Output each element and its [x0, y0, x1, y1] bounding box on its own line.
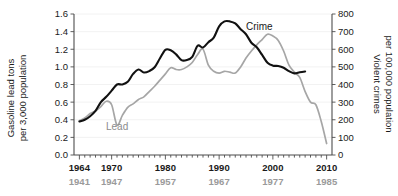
right-axis-title-line1: Violent crimes [372, 54, 383, 114]
left-tick-label: 0.2 [55, 132, 68, 143]
x-tick-label-lead-year: 1985 [316, 176, 338, 187]
bottom-axis-ticks [79, 155, 326, 160]
right-tick-label: 400 [338, 79, 354, 90]
right-tick-label: 100 [338, 132, 354, 143]
right-axis-title: Violent crimes per 100,000 population [372, 35, 395, 132]
left-tick-label: 1.4 [55, 26, 68, 37]
right-tick-label: 700 [338, 26, 354, 37]
series-label-crime: Crime [246, 21, 273, 32]
right-tick-label: 200 [338, 114, 354, 125]
gridlines [74, 14, 332, 137]
x-axis-primary-tick-labels: 196419701980199020002010 [69, 162, 337, 173]
left-tick-label: 0.4 [55, 114, 68, 125]
left-axis-title-line1: Gasoline lead tons [5, 58, 16, 137]
right-tick-label: 800 [338, 8, 354, 19]
x-tick-label-lead-year: 1941 [69, 176, 91, 187]
x-tick-label-crime-year: 2000 [262, 162, 283, 173]
lead-crime-chart: 0.00.20.40.60.81.01.21.41.6 010020030040… [0, 0, 398, 196]
right-tick-label: 0 [338, 149, 343, 160]
right-tick-label: 500 [338, 61, 354, 72]
left-axis-title-line2: per 3,000 population [17, 55, 28, 142]
x-tick-label-crime-year: 1990 [209, 162, 230, 173]
x-tick-label-crime-year: 1970 [101, 162, 122, 173]
x-axis-secondary-tick-labels: 194119471957196719771985 [69, 176, 338, 187]
chart-canvas: 0.00.20.40.60.81.01.21.41.6 010020030040… [0, 0, 398, 196]
left-tick-label: 0.6 [55, 97, 68, 108]
x-tick-label-crime-year: 2010 [316, 162, 337, 173]
right-axis-title-line2: per 100,000 population [384, 35, 395, 132]
right-tick-label: 600 [338, 44, 354, 55]
x-tick-label-lead-year: 1947 [101, 176, 122, 187]
right-tick-label: 300 [338, 97, 354, 108]
left-axis-title: Gasoline lead tons per 3,000 population [5, 55, 28, 142]
left-tick-label: 1.2 [55, 44, 68, 55]
x-tick-label-crime-year: 1980 [155, 162, 176, 173]
x-tick-label-lead-year: 1967 [209, 176, 230, 187]
x-tick-label-lead-year: 1977 [262, 176, 283, 187]
right-axis-tick-labels: 0100200300400500600700800 [338, 8, 354, 160]
left-tick-label: 1.0 [55, 61, 68, 72]
left-tick-label: 0.8 [55, 79, 68, 90]
left-tick-label: 1.6 [55, 8, 68, 19]
left-tick-label: 0.0 [55, 149, 68, 160]
left-axis-tick-labels: 0.00.20.40.60.81.01.21.41.6 [55, 8, 68, 160]
x-tick-label-lead-year: 1957 [155, 176, 176, 187]
x-tick-label-crime-year: 1964 [69, 162, 91, 173]
series-label-lead: Lead [106, 121, 128, 132]
